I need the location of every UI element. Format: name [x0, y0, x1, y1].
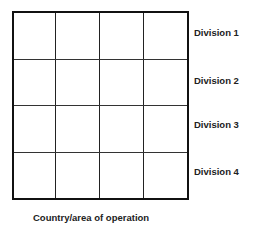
x-axis-caption: Country/area of operation	[33, 212, 149, 223]
grid-row-divider	[14, 152, 187, 153]
matrix-grid	[12, 11, 189, 200]
row-label-division-4: Division 4	[194, 166, 254, 177]
grid-row-divider	[14, 59, 187, 60]
row-label-division-1: Division 1	[194, 27, 254, 38]
row-label-division-3: Division 3	[194, 119, 254, 130]
grid-row-divider	[14, 105, 187, 106]
row-label-division-2: Division 2	[194, 75, 254, 86]
